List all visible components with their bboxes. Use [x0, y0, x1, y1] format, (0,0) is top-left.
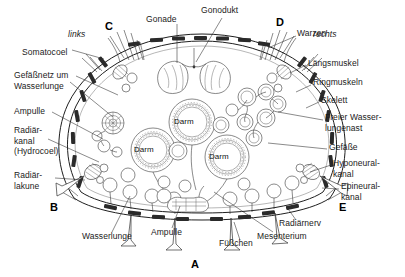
water-lung-left: [92, 112, 124, 157]
nerve-canal-cluster-right: [296, 161, 322, 183]
section-letter-a: A: [191, 259, 199, 270]
label-radiaerkanal-hydrocoel: Radiär- kanal (Hydrocoel): [14, 125, 58, 157]
orientation-left: links: [68, 29, 85, 40]
section-letter-e: E: [339, 202, 346, 213]
label-gefaesse: Gefäße: [329, 142, 358, 153]
label-gefaessnetz-wasserlunge: Gefäßnetz um Wasserlunge: [14, 70, 68, 91]
label-darm-3: Darm: [209, 152, 229, 163]
label-gonodukt: Gonodukt: [201, 5, 238, 16]
label-mesenterium: Mesenterium: [257, 231, 307, 242]
label-fuesschen: Füßchen: [219, 238, 253, 249]
nerve-canal-cluster-left: [82, 161, 108, 183]
label-radiaerlakune: Radiär- lakune: [14, 170, 42, 191]
label-hyponeuralkanal: Hyponeural- kanal: [333, 158, 380, 179]
radial-nerve-center: [157, 189, 209, 212]
label-ringmuskeln: Ringmuskeln: [313, 77, 363, 88]
label-radiaernerv: Radiärnerv: [279, 218, 321, 229]
label-warzen: Warzen: [297, 28, 326, 39]
label-somatocoel: Somatocoel: [22, 47, 67, 58]
section-letter-d: D: [276, 17, 284, 28]
label-epineuralkanal: Epineural- kanal: [341, 181, 380, 202]
label-gonade: Gonade: [146, 14, 177, 25]
label-skelett: Skelett: [321, 95, 347, 106]
section-letter-c: C: [105, 21, 113, 32]
label-freier-wasserlungenast: Freier Wasser- lungenast: [325, 112, 382, 133]
label-darm-1: Darm: [174, 117, 194, 128]
label-ampulle-left: Ampulle: [14, 106, 45, 117]
label-darm-2: Darm: [134, 145, 154, 156]
gonads: [158, 48, 231, 94]
anatomical-figure: links rechts A B C D E Somatocoel Gefäßn…: [0, 0, 405, 277]
nerve-cluster-c: [110, 62, 137, 92]
cross-section-drawing: [0, 0, 405, 277]
section-letter-b: B: [50, 202, 58, 213]
label-ampulle-bottom: Ampulle: [151, 227, 182, 238]
label-wasserlunge: Wasserlunge: [82, 231, 132, 242]
label-laengsmuskel: Längsmuskel: [308, 58, 359, 69]
